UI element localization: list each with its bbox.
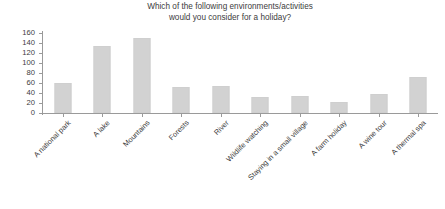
x-axis-tick-label-text: River	[213, 119, 231, 137]
chart-title-line-2: would you consider for a holiday?	[60, 13, 400, 24]
bar-slot	[359, 33, 399, 113]
bar-slot	[320, 33, 360, 113]
y-axis-tick-mark	[39, 83, 42, 84]
x-axis-tick-label: A wine tour	[357, 119, 389, 151]
y-axis-tick-mark	[39, 33, 42, 34]
x-axis-tick-mark	[260, 114, 261, 117]
x-axis-tick-labels: A national parkA lakeMountainsForestsRiv…	[43, 114, 438, 209]
y-axis-tick-label: 40	[27, 89, 35, 97]
bar	[252, 97, 269, 114]
y-axis-tick-label: 100	[22, 59, 35, 67]
y-axis-tick-mark	[39, 53, 42, 54]
y-axis-tick-label: 120	[22, 49, 35, 57]
bar-slot	[83, 33, 123, 113]
bar	[94, 46, 111, 114]
x-axis-tick-mark	[379, 114, 380, 117]
bar	[410, 77, 427, 113]
bar-slot	[241, 33, 281, 113]
bar	[331, 102, 348, 113]
chart-title: Which of the following environments/acti…	[60, 2, 400, 23]
x-axis-tick-label-text: A national park	[32, 119, 72, 159]
x-axis-tick-mark	[142, 114, 143, 117]
bar-slot	[43, 33, 83, 113]
bar-series	[43, 33, 438, 113]
x-axis-tick-label-text: Forests	[168, 119, 191, 142]
x-axis-tick-mark	[181, 114, 182, 117]
bar-chart: Which of the following environments/acti…	[0, 0, 445, 209]
y-axis-tick-label: 20	[27, 99, 35, 107]
x-axis-tick-label-text: A thermal spa	[390, 119, 428, 157]
bar-slot	[122, 33, 162, 113]
x-axis-tick-label: A lake	[92, 119, 112, 139]
bar-slot	[162, 33, 202, 113]
y-axis-tick-mark	[39, 93, 42, 94]
y-axis-tick-mark	[39, 73, 42, 74]
bar-slot	[280, 33, 320, 113]
x-axis-tick-mark	[418, 114, 419, 117]
x-axis-tick-mark	[63, 114, 64, 117]
x-axis-tick-mark	[300, 114, 301, 117]
y-axis-tick-mark	[39, 63, 42, 64]
bar-slot	[399, 33, 439, 113]
x-axis-tick-mark	[339, 114, 340, 117]
x-axis-tick-label-text: Mountains	[122, 119, 152, 149]
x-axis-tick-label: River	[213, 119, 231, 137]
y-axis-tick-mark	[39, 43, 42, 44]
x-axis-tick-label: A national park	[32, 119, 72, 159]
bar	[173, 87, 190, 113]
x-axis-tick-label-text: A farm holiday	[310, 119, 349, 158]
x-axis-tick-label: Mountains	[122, 119, 152, 149]
bar	[212, 86, 229, 114]
bar-slot	[201, 33, 241, 113]
x-axis-tick-label: A thermal spa	[390, 119, 428, 157]
x-axis-tick-label: Forests	[168, 119, 191, 142]
y-axis-tick-mark	[39, 103, 42, 104]
y-axis-tick-label: 60	[27, 79, 35, 87]
bar	[54, 83, 71, 114]
bar	[133, 38, 150, 113]
chart-title-line-1: Which of the following environments/acti…	[60, 2, 400, 13]
x-axis-tick-label-text: A lake	[92, 119, 112, 139]
y-axis-tick-labels: 160140120100806040200	[0, 33, 38, 113]
y-axis-tick-mark	[39, 113, 42, 114]
y-axis-tick-label: 160	[22, 29, 35, 37]
x-axis-tick-mark	[221, 114, 222, 117]
bar	[291, 96, 308, 114]
x-axis-tick-label: A farm holiday	[310, 119, 349, 158]
x-axis-tick-label-text: A wine tour	[357, 119, 389, 151]
y-axis-tick-label: 80	[27, 69, 35, 77]
bar	[370, 94, 387, 114]
y-axis-tick-label: 0	[31, 109, 35, 117]
y-axis-tick-label: 140	[22, 39, 35, 47]
x-axis-tick-mark	[102, 114, 103, 117]
